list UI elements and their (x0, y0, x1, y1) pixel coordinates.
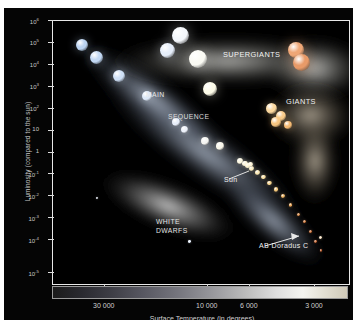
x-tick-label: 6 000 (219, 302, 279, 309)
y-tick (48, 217, 54, 218)
temperature-color-strip (52, 286, 348, 299)
hr-diagram-figure: Luminosity (compared to the sun) (0, 0, 360, 328)
plot-area: SUPERGIANTSGIANTSMAINSEQUENCEWHITEDWARFS… (52, 20, 350, 285)
y-tick (48, 152, 54, 153)
x-axis-title: Surface Temperature (in degrees) (52, 315, 352, 320)
annotation-ab-doradus-c: AB Doradus C (259, 242, 309, 249)
y-tick (48, 42, 54, 43)
figure-plate: Luminosity (compared to the sun) (4, 8, 353, 320)
y-tick (48, 239, 54, 240)
y-tick (48, 130, 54, 131)
y-tick-label: 104 (4, 60, 39, 68)
x-tick-label: 3 000 (284, 302, 344, 309)
annotation-giants: GIANTS (286, 97, 316, 106)
y-tick (48, 272, 54, 273)
y-tick (48, 86, 54, 87)
y-tick-label: 102 (4, 104, 39, 112)
y-tick (48, 173, 54, 174)
y-tick-label: 103 (4, 82, 39, 90)
y-tick-label: 10-4 (4, 236, 39, 244)
y-tick-label: 10-5 (4, 269, 39, 277)
y-tick-label: 1 (4, 148, 39, 154)
y-tick-label: 10-3 (4, 214, 39, 222)
annotation-sequence: SEQUENCE (168, 113, 209, 120)
y-tick-label: 10-2 (4, 192, 39, 200)
y-tick-label: 10-1 (4, 170, 39, 178)
y-tick-label: 10 (4, 126, 39, 132)
y-tick (48, 20, 54, 21)
y-tick (48, 195, 54, 196)
annotation-supergiants: SUPERGIANTS (223, 50, 280, 59)
y-tick (48, 108, 54, 109)
annotation-sun: Sun (224, 176, 238, 183)
annotation-main: MAIN (146, 91, 165, 98)
x-tick-label: 30 000 (74, 302, 134, 309)
annotation-dwarfs: DWARFS (156, 227, 188, 234)
y-tick-label: 105 (4, 38, 39, 46)
annotation-white: WHITE (156, 218, 180, 225)
y-tick-label: 106 (4, 17, 39, 25)
y-tick (48, 64, 54, 65)
annotation-layer: SUPERGIANTSGIANTSMAINSEQUENCEWHITEDWARFS… (53, 21, 349, 284)
